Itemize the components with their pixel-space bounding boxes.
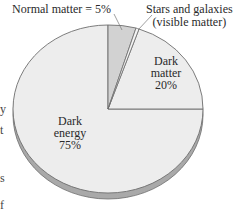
- pie-chart: [0, 0, 235, 216]
- label-stars-line2: (visible matter): [146, 16, 233, 29]
- edge-fragment-1: y: [0, 103, 6, 115]
- edge-fragment-4: f: [0, 199, 4, 211]
- edge-fragment-2: t: [0, 124, 3, 136]
- label-normal-matter: Normal matter = 5%: [12, 3, 111, 15]
- label-dark-matter-value: 20%: [146, 79, 186, 91]
- label-stars-galaxies: Stars and galaxies (visible matter): [146, 3, 233, 29]
- edge-fragment-3: s: [0, 172, 5, 184]
- label-dark-matter: Dark matter 20%: [146, 55, 186, 91]
- label-dark-energy-value: 75%: [50, 139, 90, 151]
- label-dark-energy: Dark energy 75%: [50, 115, 90, 151]
